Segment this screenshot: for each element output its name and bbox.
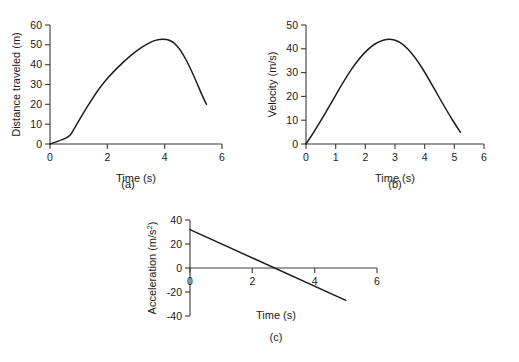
- chart-c-x-axis-title: Time (s): [256, 309, 296, 321]
- chart-b-xtick-3: 3: [392, 151, 398, 163]
- chart-a-x-ticklabels: 0 2 4 6: [47, 151, 225, 163]
- chart-a-caption-svg: (a): [0, 176, 252, 198]
- chart-a-ytick-20: 20: [30, 98, 42, 110]
- chart-a-y-ticklabels: 0 10 20 30 40 50 60: [30, 19, 42, 150]
- chart-b-x-ticklabels: 0 1 2 3 4 5 6: [303, 151, 487, 163]
- chart-c-y-ticklabels: 40 20 0 -20 -40: [167, 214, 182, 322]
- chart-b-ytick-0: 0: [292, 138, 298, 150]
- chart-c-svg: 40 20 0 -20 -40 0 2 4 6 Time: [132, 198, 416, 362]
- chart-a-ytick-10: 10: [30, 118, 42, 130]
- chart-c-caption: (c): [270, 331, 283, 343]
- chart-b-caption-svg: (b): [258, 176, 516, 198]
- chart-c-ytick-neg40: -40: [167, 310, 182, 322]
- chart-b-xtick-1: 1: [333, 151, 339, 163]
- chart-b-xtick-6: 6: [481, 151, 487, 163]
- chart-c-y-axis-title-main: Acceleration (m/s: [146, 229, 158, 314]
- chart-b-xtick-4: 4: [422, 151, 428, 163]
- chart-a-ytick-60: 60: [30, 19, 42, 31]
- chart-b-data-curve: [306, 39, 461, 144]
- chart-a-ytick-0: 0: [36, 138, 42, 150]
- chart-b-ytick-10: 10: [286, 114, 298, 126]
- chart-a-caption: (a): [121, 178, 134, 190]
- chart-a-y-ticks: [45, 25, 50, 144]
- chart-b-svg: 0 10 20 30 40 50 0 1 2 3: [258, 0, 516, 196]
- chart-c-data-line: [190, 230, 346, 301]
- chart-c-ytick-40: 40: [170, 214, 182, 226]
- chart-c-xtick-2: 2: [249, 275, 255, 287]
- chart-b-caption: (b): [388, 178, 401, 190]
- chart-a-xtick-6: 6: [219, 151, 225, 163]
- chart-b-xtick-5: 5: [451, 151, 457, 163]
- chart-panel-c: 40 20 0 -20 -40 0 2 4 6 Time: [132, 198, 416, 362]
- chart-c-x-ticklabels: 0 2 4 6: [187, 275, 380, 287]
- chart-panel-a: 0 10 20 30 40 50 60 0 2 4 6: [0, 0, 252, 196]
- chart-c-ytick-0: 0: [176, 262, 182, 274]
- chart-b-ytick-40: 40: [286, 42, 298, 54]
- chart-a-x-ticks: [50, 144, 222, 149]
- chart-b-xtick-0: 0: [303, 151, 309, 163]
- chart-b-y-ticklabels: 0 10 20 30 40 50: [286, 19, 298, 150]
- physics-motion-figure: 0 10 20 30 40 50 60 0 2 4 6: [0, 0, 519, 362]
- chart-c-xtick-6: 6: [374, 275, 380, 287]
- chart-a-xtick-0: 0: [47, 151, 53, 163]
- chart-b-y-axis-title: Velocity (m/s): [266, 51, 278, 117]
- chart-a-svg: 0 10 20 30 40 50 60 0 2 4 6: [0, 0, 252, 196]
- chart-c-y-axis-title: Acceleration (m/s2): [145, 222, 158, 315]
- chart-b-y-ticks: [301, 25, 306, 144]
- chart-b-ytick-20: 20: [286, 90, 298, 102]
- chart-a-ytick-50: 50: [30, 38, 42, 50]
- chart-a-xtick-2: 2: [104, 151, 110, 163]
- chart-c-xtick-0: 0: [187, 275, 193, 287]
- chart-b-xtick-2: 2: [362, 151, 368, 163]
- chart-c-ytick-20: 20: [170, 238, 182, 250]
- chart-b-x-ticks: [306, 144, 484, 149]
- chart-c-ytick-neg20: -20: [167, 286, 182, 298]
- chart-b-ytick-50: 50: [286, 19, 298, 31]
- chart-panel-b: 0 10 20 30 40 50 0 1 2 3: [258, 0, 516, 196]
- chart-a-y-axis-title: Distance traveled (m): [10, 32, 22, 137]
- chart-a-xtick-4: 4: [162, 151, 168, 163]
- chart-a-ytick-30: 30: [30, 78, 42, 90]
- chart-c-y-ticks: [185, 220, 190, 316]
- chart-c-y-axis-title-tail: ): [146, 222, 158, 226]
- chart-a-ytick-40: 40: [30, 58, 42, 70]
- chart-a-data-curve: [50, 39, 207, 144]
- chart-b-ytick-30: 30: [286, 66, 298, 78]
